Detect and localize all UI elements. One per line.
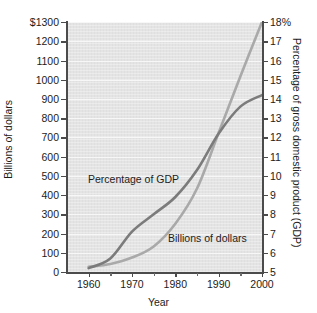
left-tick — [61, 118, 66, 119]
right-tick-label: 5 — [270, 267, 276, 278]
bottom-minor-tick — [197, 273, 198, 276]
right-tick-label: 10 — [270, 171, 282, 182]
bottom-tick-label: 1960 — [77, 279, 100, 290]
left-tick — [61, 176, 66, 177]
right-tick — [263, 99, 268, 100]
right-tick-label: 14 — [270, 94, 282, 105]
right-tick — [263, 272, 268, 273]
left-tick — [61, 61, 66, 62]
left-tick — [61, 137, 66, 138]
left-tick — [61, 253, 66, 254]
left-tick — [61, 157, 66, 158]
right-axis-line — [262, 21, 264, 273]
bottom-minor-tick — [110, 273, 111, 276]
bottom-tick-label: 1980 — [164, 279, 187, 290]
left-tick-label: 1000 — [36, 75, 59, 86]
series-line-billions-of-dollars — [89, 22, 262, 267]
left-tick-label: 300 — [41, 209, 59, 220]
right-tick — [263, 61, 268, 62]
left-tick — [61, 195, 66, 196]
bottom-tick — [175, 273, 176, 277]
right-tick-label: 12 — [270, 132, 282, 143]
right-tick-label: 15 — [270, 75, 282, 86]
left-tick-label: 700 — [41, 132, 59, 143]
bottom-tick-label: 1970 — [120, 279, 143, 290]
bottom-minor-tick — [154, 273, 155, 276]
left-tick — [61, 234, 66, 235]
left-tick — [61, 99, 66, 100]
left-tick-label: 800 — [41, 113, 59, 124]
right-tick — [263, 118, 268, 119]
bottom-tick — [89, 273, 90, 277]
bottom-tick — [132, 273, 133, 277]
right-tick — [263, 157, 268, 158]
right-tick — [263, 41, 268, 42]
right-tick-label: 13 — [270, 113, 282, 124]
right-axis-title: Percentage of gross domestic product (GD… — [291, 38, 303, 248]
left-tick-label: 1200 — [36, 36, 59, 47]
right-tick-label: 16 — [270, 56, 282, 67]
left-tick-label: 500 — [41, 171, 59, 182]
bottom-tick — [262, 273, 263, 277]
right-tick-label: 7 — [270, 229, 276, 240]
left-tick — [61, 41, 66, 42]
bottom-tick — [219, 273, 220, 277]
series-annotation-billions-of-dollars: Billions of dollars — [168, 233, 247, 244]
left-axis-title: Billions of dollars — [2, 100, 14, 179]
left-tick-label: $1300 — [30, 17, 59, 28]
right-tick-label: 9 — [270, 190, 276, 201]
left-tick-label: 600 — [41, 152, 59, 163]
x-axis-title: Year — [0, 296, 317, 308]
right-tick — [263, 214, 268, 215]
right-tick — [263, 137, 268, 138]
right-tick — [263, 80, 268, 81]
right-tick-label: 8 — [270, 209, 276, 220]
left-tick — [61, 22, 66, 23]
right-tick — [263, 22, 268, 23]
left-tick-label: 0 — [53, 267, 59, 278]
left-tick-label: 1100 — [36, 56, 59, 67]
left-tick-label: 200 — [41, 229, 59, 240]
left-tick-label: 900 — [41, 94, 59, 105]
right-tick — [263, 195, 268, 196]
right-tick-label: 11 — [270, 152, 281, 163]
right-tick — [263, 234, 268, 235]
left-tick-label: 400 — [41, 190, 59, 201]
bottom-tick-label: 2000 — [250, 279, 273, 290]
bottom-minor-tick — [240, 273, 241, 276]
right-tick — [263, 176, 268, 177]
right-tick-label: 17 — [270, 36, 282, 47]
left-tick — [61, 272, 66, 273]
chart-container: 0100200300400500600700800900100011001200… — [0, 0, 317, 313]
left-tick — [61, 214, 66, 215]
bottom-tick-label: 1990 — [207, 279, 230, 290]
left-axis-line — [66, 21, 68, 273]
left-tick-label: 100 — [41, 248, 59, 259]
right-tick-label: 18% — [270, 17, 291, 28]
right-tick-label: 6 — [270, 248, 276, 259]
left-tick — [61, 80, 66, 81]
right-tick — [263, 253, 268, 254]
bottom-axis-line — [66, 272, 264, 274]
series-annotation-percentage-of-gdp: Percentage of GDP — [88, 174, 179, 185]
